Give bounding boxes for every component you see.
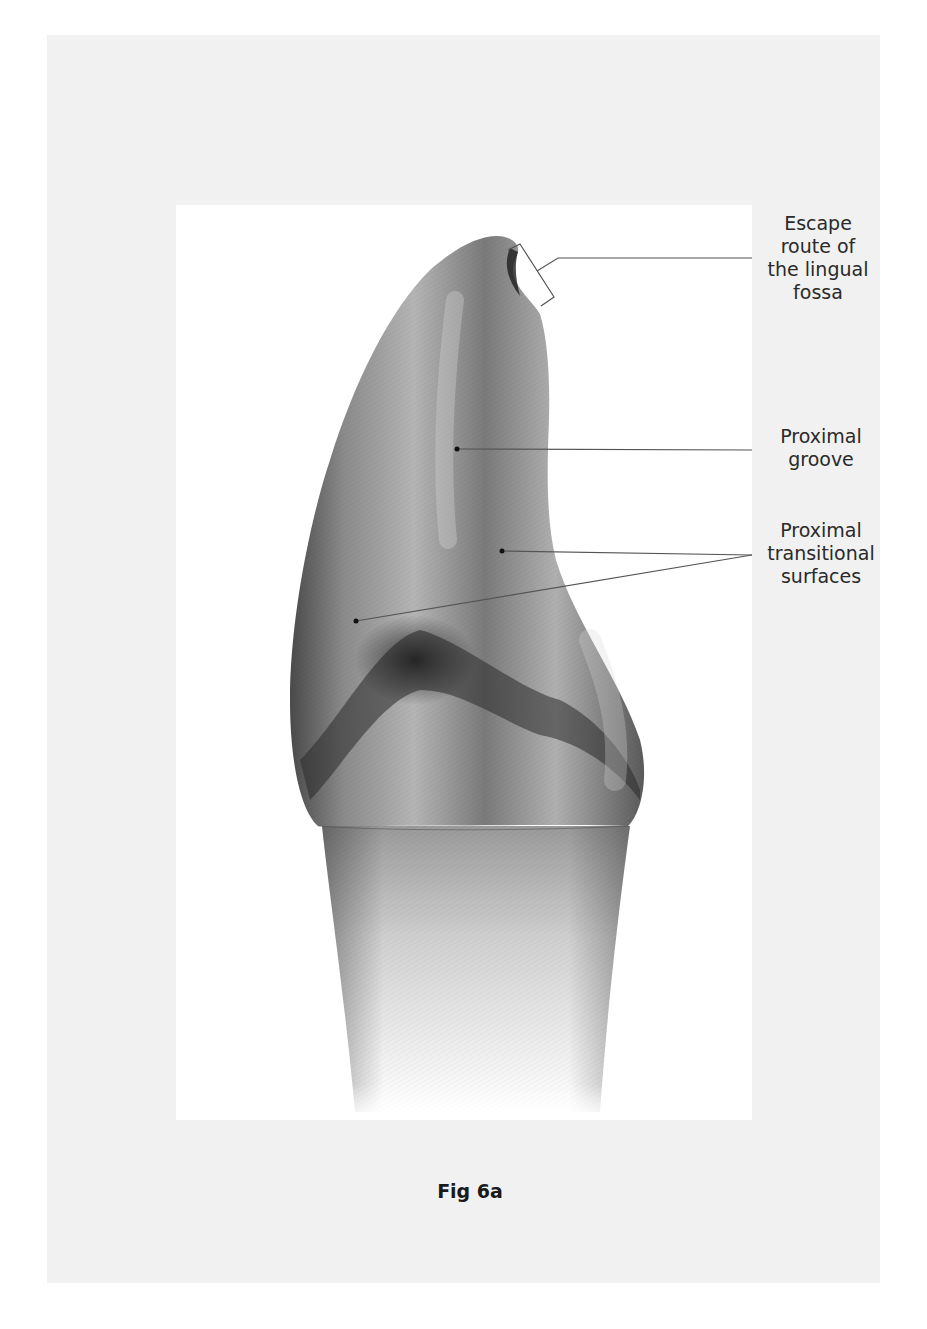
label-line: fossa: [754, 281, 882, 304]
crown-shape: [290, 236, 644, 830]
label-line: surfaces: [757, 565, 885, 588]
label-line: Proximal: [757, 425, 885, 448]
label-escape-route: Escape route of the lingual fossa: [754, 212, 882, 304]
tooth-illustration: [0, 0, 927, 1329]
label-line: transitional: [757, 542, 885, 565]
escape-route-leader: [537, 258, 752, 271]
label-line: Escape: [754, 212, 882, 235]
label-proximal-transitional: Proximal transitional surfaces: [757, 519, 885, 588]
label-line: Proximal: [757, 519, 885, 542]
figure-caption: Fig 6a: [380, 1180, 560, 1202]
label-line: route of: [754, 235, 882, 258]
label-line: groove: [757, 448, 885, 471]
transitional-lower-dot: [354, 619, 359, 624]
root-shape: [322, 826, 630, 1120]
label-proximal-groove: Proximal groove: [757, 425, 885, 471]
proximal-groove-dot: [455, 447, 460, 452]
transitional-upper-dot: [500, 549, 505, 554]
label-line: the lingual: [754, 258, 882, 281]
